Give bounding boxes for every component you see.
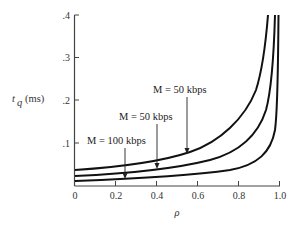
annotation-bottom-label: M = 100 kbps <box>87 135 146 146</box>
x-axis-label: ρ <box>173 207 179 218</box>
x-tick-label: 0.2 <box>110 190 123 201</box>
y-axis-label-sub: q <box>17 97 22 108</box>
y-axis-label-main: t <box>12 93 16 104</box>
y-tick-label: .1 <box>63 138 71 149</box>
x-tick-label: 0 <box>73 190 78 201</box>
arrowhead-icon <box>155 163 160 169</box>
curve-m50-middle <box>75 15 275 176</box>
x-tick-label: 0.6 <box>192 190 205 201</box>
annotation-top-label: M = 50 kbps <box>153 84 206 95</box>
annotation-middle-label: M = 50 kbps <box>119 111 172 122</box>
chart: .4 .3 .2 .1 t q (ms) 0 0.2 0.4 0.6 0.8 1… <box>0 0 293 226</box>
x-tick-label: 0.4 <box>151 190 164 201</box>
y-tick-label: .3 <box>63 52 71 63</box>
x-tick-label: 0.8 <box>233 190 246 201</box>
y-tick-label: .4 <box>63 10 71 21</box>
y-axis-label-unit: (ms) <box>25 93 45 105</box>
x-tick-label: 1.0 <box>274 190 287 201</box>
y-tick-label: .2 <box>63 95 71 106</box>
